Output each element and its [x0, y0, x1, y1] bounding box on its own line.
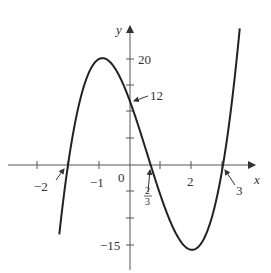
x-label-neg1: −1: [90, 175, 104, 190]
arrow-12: [134, 96, 148, 101]
root-left-label: −2: [34, 179, 48, 194]
root-mid-numerator: 2: [145, 185, 150, 196]
root-mid-denominator: 3: [145, 196, 150, 207]
y-label-neg15: −15: [100, 238, 120, 253]
cubic-function-graph: y x 20 −15 −1 0 2 12 −2 2 3 3: [0, 0, 271, 273]
y-label-20: 20: [138, 52, 151, 67]
x-label-zero: 0: [118, 170, 125, 185]
y-axis-label: y: [114, 22, 122, 37]
y-intercept-label: 12: [150, 88, 163, 103]
arrow-neg2: [56, 169, 64, 180]
arrow-3: [225, 170, 235, 185]
root-right-label: 3: [236, 183, 243, 198]
x-label-2: 2: [187, 174, 194, 189]
x-axis-label: x: [253, 172, 260, 187]
